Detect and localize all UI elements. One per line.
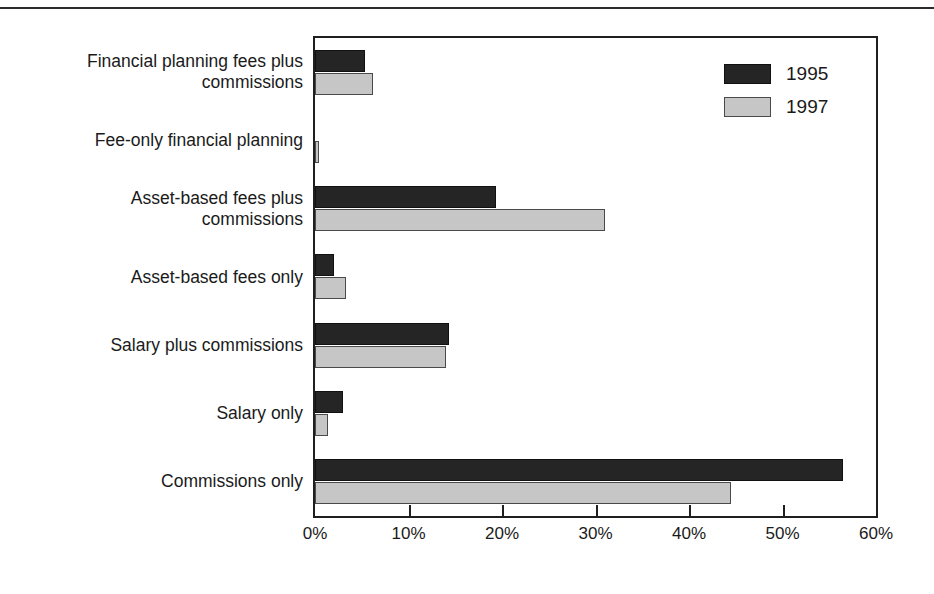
bar-1995-2 <box>315 186 496 208</box>
bar-1995-3 <box>315 254 334 276</box>
bar-group <box>315 243 876 311</box>
category-label-3: Asset-based fees only <box>30 267 303 288</box>
x-tick-label-60%: 60% <box>841 524 911 544</box>
bar-1997-4 <box>315 346 446 368</box>
category-label-line: Salary only <box>30 403 303 424</box>
category-label-line: Financial planning fees plus <box>30 51 303 72</box>
x-tick-50% <box>783 505 785 516</box>
legend-swatch-1995 <box>724 64 771 84</box>
category-label-line: Salary plus commissions <box>30 335 303 356</box>
plot-inner: 1995 1997 <box>315 38 876 516</box>
bar-group <box>315 175 876 243</box>
bar-1997-6 <box>315 482 731 504</box>
category-label-line: commissions <box>30 209 303 230</box>
x-tick-10% <box>409 505 411 516</box>
category-label-line: commissions <box>30 72 303 93</box>
bar-1995-6 <box>315 459 843 481</box>
x-tick-30% <box>596 505 598 516</box>
category-label-line: Commissions only <box>30 471 303 492</box>
legend-item-1995: 1995 <box>724 62 874 88</box>
category-label-line: Asset-based fees only <box>30 267 303 288</box>
x-tick-20% <box>502 505 504 516</box>
bar-1997-1 <box>315 141 319 163</box>
bar-1997-5 <box>315 414 328 436</box>
category-label-1: Fee-only financial planning <box>30 130 303 151</box>
chart-legend: 1995 1997 <box>724 62 874 128</box>
plot-area: 1995 1997 <box>313 36 878 518</box>
category-label-line: Asset-based fees plus <box>30 188 303 209</box>
x-tick-label-20%: 20% <box>467 524 537 544</box>
legend-swatch-1997 <box>724 97 771 117</box>
x-tick-label-10%: 10% <box>374 524 444 544</box>
x-tick-label-30%: 30% <box>561 524 631 544</box>
category-label-0: Financial planning fees pluscommissions <box>30 51 303 93</box>
bar-group <box>315 379 876 447</box>
bar-1997-3 <box>315 277 346 299</box>
category-label-line: Fee-only financial planning <box>30 130 303 151</box>
bar-1995-4 <box>315 323 449 345</box>
legend-label-1997: 1997 <box>786 95 828 119</box>
legend-label-1995: 1995 <box>786 62 828 86</box>
bar-1995-0 <box>315 50 365 72</box>
category-label-6: Commissions only <box>30 471 303 492</box>
x-tick-label-50%: 50% <box>748 524 818 544</box>
category-label-2: Asset-based fees pluscommissions <box>30 188 303 230</box>
bar-1997-0 <box>315 73 373 95</box>
category-label-5: Salary only <box>30 403 303 424</box>
category-label-4: Salary plus commissions <box>30 335 303 356</box>
x-tick-40% <box>689 505 691 516</box>
x-tick-label-0%: 0% <box>280 524 350 544</box>
x-tick-label-40%: 40% <box>654 524 724 544</box>
chart-figure: Financial planning fees pluscommissionsF… <box>0 0 934 594</box>
legend-item-1997: 1997 <box>724 95 874 121</box>
bar-group <box>315 311 876 379</box>
bar-1995-5 <box>315 391 343 413</box>
bar-1997-2 <box>315 209 605 231</box>
